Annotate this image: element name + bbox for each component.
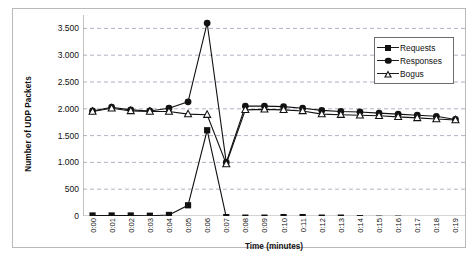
y-axis-title: Number of UDP Packets <box>21 39 35 209</box>
x-axis-tick-label-text: 0:06 <box>203 218 212 233</box>
x-axis-tick-label-text: 0:11 <box>298 218 307 232</box>
legend-item-label: Responses <box>399 56 442 66</box>
x-axis-title: Time (minutes) <box>83 242 465 251</box>
y-axis-tick-label: 2.000 <box>58 104 79 114</box>
x-axis-tick-label-text: 0:02 <box>126 218 135 233</box>
x-axis-tick-labels: 0:000:010:020:030:040:050:060:070:080:09… <box>83 218 465 244</box>
filled-circle-icon <box>385 57 392 64</box>
x-axis-tick-label-text: 0:08 <box>241 218 250 233</box>
data-point-marker <box>280 214 286 216</box>
x-axis-tick-label-text: 0:16 <box>394 218 403 233</box>
data-point-marker <box>166 212 172 216</box>
x-axis-tick-label-text: 0:19 <box>451 218 460 233</box>
data-point-marker <box>185 98 192 105</box>
x-axis-tick-label-text: 0:12 <box>317 218 326 233</box>
x-axis-tick-label-text: 0:05 <box>184 218 193 233</box>
x-axis-tick-label-text: 0:15 <box>375 218 384 233</box>
x-axis-tick-label-text: 0:00 <box>88 218 97 233</box>
x-axis-tick-label-text: 0:10 <box>279 218 288 233</box>
legend-item-responses[interactable]: Responses <box>377 54 449 67</box>
data-point-marker <box>300 214 306 216</box>
y-axis-tick-label: 0 <box>74 211 79 221</box>
series-requests <box>89 127 458 216</box>
data-point-marker <box>128 212 134 216</box>
y-axis-title-text: Number of UDP Packets <box>24 76 33 172</box>
y-axis-tick-label: 3.000 <box>58 50 79 60</box>
legend-symbol <box>377 68 399 80</box>
x-axis-tick-label: 0:19 <box>442 218 468 244</box>
legend-symbol <box>377 42 399 54</box>
data-point-marker <box>204 20 211 27</box>
legend-symbol <box>377 55 399 67</box>
data-point-marker <box>357 215 363 216</box>
legend-item-bogus[interactable]: Bogus <box>377 67 449 80</box>
x-axis-tick-label-text: 0:09 <box>260 218 269 233</box>
y-axis-tick-labels: 05001.0001.5002.0002.5003.0003.500 <box>35 9 79 249</box>
data-point-marker <box>185 202 191 208</box>
x-axis-tick-label-text: 0:13 <box>336 218 345 233</box>
series-line <box>93 130 456 216</box>
x-axis-tick-label-text: 0:03 <box>145 218 154 233</box>
y-axis-tick-label: 500 <box>65 184 79 194</box>
legend-item-requests[interactable]: Requests <box>377 41 449 54</box>
y-axis-tick-label: 2.500 <box>58 77 79 87</box>
y-axis-tick-label: 1.500 <box>58 131 79 141</box>
data-point-marker <box>319 215 325 216</box>
legend-item-label: Bogus <box>399 69 424 79</box>
x-axis-tick-label-text: 0:14 <box>355 218 364 233</box>
data-point-marker <box>242 215 248 216</box>
x-axis-tick-label-text: 0:04 <box>164 218 173 233</box>
filled-square-icon <box>385 45 391 51</box>
data-point-marker <box>223 214 229 216</box>
data-point-marker <box>204 127 210 133</box>
data-point-marker <box>109 212 115 216</box>
y-axis-tick-label: 3.500 <box>58 23 79 33</box>
x-axis-tick-label-text: 0:17 <box>413 218 422 233</box>
x-axis-tick-label-text: 0:07 <box>222 218 231 233</box>
open-triangle-icon <box>384 70 392 77</box>
data-point-marker <box>147 213 153 216</box>
data-point-marker <box>89 212 95 216</box>
legend-item-label: Requests <box>399 43 435 53</box>
chart-legend: RequestsResponsesBogus <box>374 37 454 84</box>
data-point-marker <box>338 215 344 216</box>
data-point-marker <box>261 215 267 216</box>
y-axis-tick-label: 1.000 <box>58 157 79 167</box>
chart-frame: Number of UDP Packets 05001.0001.5002.00… <box>12 8 466 248</box>
x-axis-tick-label-text: 0:18 <box>432 218 441 233</box>
x-axis-tick-label-text: 0:01 <box>107 218 116 233</box>
series-line <box>93 108 456 164</box>
